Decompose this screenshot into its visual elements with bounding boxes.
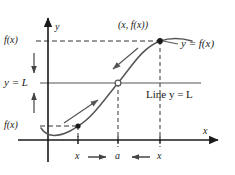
lower-fx-label: f(x) [4,120,18,130]
curve-equation-label: y = f(x) [181,38,214,49]
curve-arrow-lower [64,100,98,123]
upper-fx-label: f(x) [4,35,18,45]
limit-point [115,80,121,86]
upper-right-point [157,38,163,44]
limit-diagram-figure: f(x) y = L f(x) (x, f(x)) y = f(x) Line … [0,0,235,175]
lower-left-point [75,123,80,128]
limit-value-label: y = L [4,77,28,88]
point-coordinate-label: (x, f(x)) [118,20,148,30]
curve-label-leader [163,41,178,44]
curve-arrow-upper [113,48,138,69]
y-axis-label: y [55,22,59,32]
axis-a-label: a [115,151,120,161]
axis-right-x-label: x [157,151,161,161]
limit-line-label: Line y = L [146,89,193,100]
axis-left-x-label: x [75,151,79,161]
function-curve [41,38,192,135]
x-axis-label: x [203,126,207,136]
